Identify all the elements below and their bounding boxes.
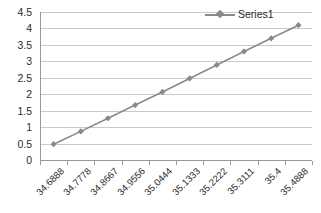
legend-series-marker-icon [205, 10, 235, 19]
series-data-point [132, 102, 138, 108]
series-data-point [295, 22, 301, 28]
series-data-point [51, 141, 57, 147]
series-data-point [78, 128, 84, 134]
series-data-point [268, 35, 274, 41]
series-data-point [105, 115, 111, 121]
series-data-point [241, 48, 247, 54]
series-data-point [187, 75, 193, 81]
series-line [54, 25, 299, 144]
series-plot [0, 0, 321, 213]
series-data-point [159, 89, 165, 95]
series-data-point [214, 62, 220, 68]
chart-legend: Series1 [205, 9, 274, 20]
line-chart: 00.511.522.533.544.5 34.688834.777834.86… [0, 0, 321, 213]
legend-entry-label: Series1 [238, 9, 274, 20]
